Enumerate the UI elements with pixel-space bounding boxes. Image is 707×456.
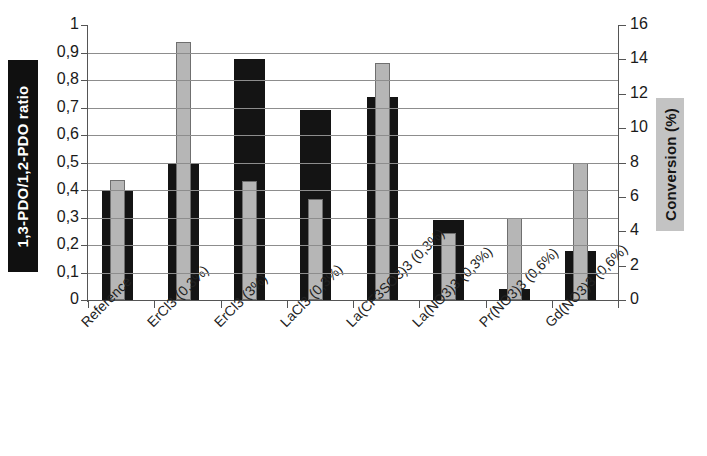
y-axis-left-tick: [81, 80, 88, 81]
y-axis-right-ticklabel: 16: [630, 15, 670, 33]
y-axis-right-ticklabel: 2: [630, 256, 670, 274]
y-axis-left-tick: [81, 108, 88, 109]
y-axis-right-tick: [618, 231, 626, 232]
y-axis-left-ticklabel: 0,6: [37, 125, 79, 143]
gridline: [88, 80, 618, 81]
x-axis-tick: [419, 301, 420, 308]
y-axis-left-ticklabel: 0,8: [37, 70, 79, 88]
y-axis-left-ticklabel: 0,4: [37, 180, 79, 198]
gridline: [88, 190, 618, 191]
y-axis-right-tick: [618, 25, 626, 26]
y-axis-left-ticklabel: 0,7: [37, 98, 79, 116]
y-axis-right-ticklabel: 8: [630, 153, 670, 171]
y-axis-right-tick: [618, 266, 626, 267]
x-axis-tick: [552, 301, 553, 308]
x-axis-tick: [88, 301, 89, 308]
y-axis-left-ticklabel: 0,2: [37, 235, 79, 253]
y-axis-left-tick: [81, 245, 88, 246]
gridline: [88, 273, 618, 274]
x-axis-category-labels: ReferenceErCl3 (0,3%)ErCl3 (3%)LaCl3 (0,…: [0, 300, 707, 456]
y-axis-left-ticklabel: 1: [37, 15, 79, 33]
y-axis-right-tick: [618, 197, 626, 198]
y-axis-left-tick: [81, 273, 88, 274]
x-axis-tick: [486, 301, 487, 308]
y-axis-left-ticklabel: 0,3: [37, 208, 79, 226]
y-axis-left-tick: [81, 25, 88, 26]
y-axis-left-tick: [81, 135, 88, 136]
x-axis-tick: [618, 301, 619, 308]
gridline: [88, 135, 618, 136]
y-axis-right-ticklabel: 6: [630, 187, 670, 205]
gridline: [88, 245, 618, 246]
y-axis-right-ticklabel: 14: [630, 49, 670, 67]
y-axis-left-ticklabel: 0,1: [37, 263, 79, 281]
gridline: [88, 53, 618, 54]
y-axis-right-tick: [618, 59, 626, 60]
y-axis-right-tick: [618, 94, 626, 95]
chart-canvas: 1,3-PDO/1,2-PDO ratio Conversion (%) 00,…: [0, 0, 707, 456]
x-axis-tick: [353, 301, 354, 308]
bar-conversion[interactable]: [375, 63, 390, 300]
y-axis-right-tick: [618, 163, 626, 164]
gridline: [88, 108, 618, 109]
y-axis-left-tick: [81, 300, 88, 301]
y-axis-left-tick: [81, 163, 88, 164]
y-axis-right-tick: [618, 128, 626, 129]
x-axis-tick: [221, 301, 222, 308]
y-axis-left-tick: [81, 218, 88, 219]
y-axis-left-tick: [81, 190, 88, 191]
y-axis-right-tick: [618, 300, 626, 301]
y-axis-left-title-text: 1,3-PDO/1,2-PDO ratio: [15, 85, 32, 247]
y-axis-right-ticklabel: 10: [630, 118, 670, 136]
gridline: [88, 163, 618, 164]
y-axis-right-ticklabel: 4: [630, 221, 670, 239]
y-axis-left-tick: [81, 53, 88, 54]
y-axis-right-ticklabel: 12: [630, 84, 670, 102]
x-axis-tick: [154, 301, 155, 308]
y-axis-left-ticklabel: 0,5: [37, 153, 79, 171]
gridline: [88, 218, 618, 219]
x-axis-tick: [287, 301, 288, 308]
y-axis-left-ticklabel: 0,9: [37, 43, 79, 61]
